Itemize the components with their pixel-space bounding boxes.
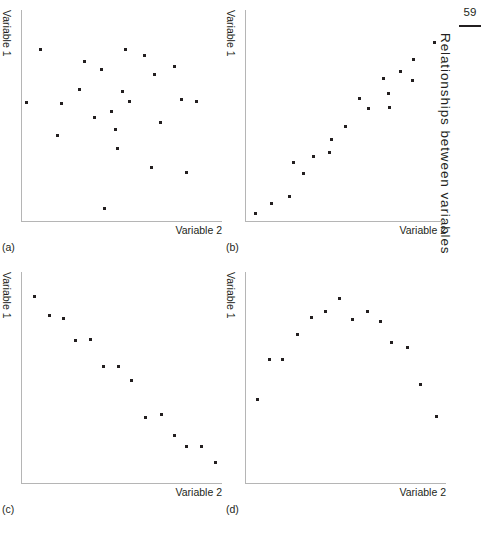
- data-point: [121, 90, 124, 93]
- data-point: [435, 415, 438, 418]
- data-point: [25, 101, 28, 104]
- data-point: [159, 121, 162, 124]
- data-point: [89, 338, 92, 341]
- x-axis-label-d: Variable 2: [245, 486, 446, 498]
- data-point: [185, 445, 188, 448]
- plot-frame-d: [245, 272, 446, 484]
- data-point: [143, 54, 146, 57]
- data-point: [388, 106, 391, 109]
- running-head: 59 Relationships between variables: [453, 0, 493, 300]
- data-point: [116, 147, 119, 150]
- data-point: [328, 151, 331, 154]
- data-point: [411, 79, 414, 82]
- data-point: [117, 365, 120, 368]
- plot-frame-c: [21, 272, 222, 484]
- data-point: [128, 100, 131, 103]
- data-point: [292, 161, 295, 164]
- panel-tag-a: (a): [2, 241, 15, 253]
- y-axis-label-text: Variable 1: [225, 10, 237, 57]
- data-point: [419, 383, 422, 386]
- scatterplot-panel-d: Variable 1 Variable 2 (d): [224, 264, 448, 526]
- data-point: [268, 358, 271, 361]
- plot-area-a: [22, 10, 222, 221]
- data-point: [114, 128, 117, 131]
- data-point: [302, 172, 305, 175]
- data-point: [102, 365, 105, 368]
- plot-area-b: [246, 10, 446, 221]
- y-axis-label-text: Variable 1: [1, 272, 13, 319]
- data-point: [200, 445, 203, 448]
- data-point: [387, 92, 390, 95]
- y-axis-label-c: Variable 1: [0, 272, 16, 352]
- data-point: [254, 212, 257, 215]
- data-point: [150, 166, 153, 169]
- data-point: [60, 102, 63, 105]
- data-point: [390, 341, 393, 344]
- data-point: [185, 171, 188, 174]
- data-point: [330, 138, 333, 141]
- data-point: [110, 110, 113, 113]
- data-point: [130, 379, 133, 382]
- data-point: [338, 297, 341, 300]
- data-point: [412, 58, 415, 61]
- panel-tag-d: (d): [226, 503, 239, 515]
- data-point: [288, 195, 291, 198]
- data-point: [83, 60, 86, 63]
- data-point: [358, 97, 361, 100]
- data-point: [153, 73, 156, 76]
- data-point: [93, 116, 96, 119]
- y-axis-label-d: Variable 1: [224, 272, 240, 352]
- data-point: [103, 207, 106, 210]
- data-point: [39, 48, 42, 51]
- data-point: [399, 70, 402, 73]
- x-axis-label-c: Variable 2: [21, 486, 222, 498]
- data-point: [310, 316, 313, 319]
- data-point: [195, 100, 198, 103]
- data-point: [382, 77, 385, 80]
- page-number: 59: [453, 6, 487, 18]
- data-point: [144, 416, 147, 419]
- data-point: [214, 461, 217, 464]
- data-point: [281, 358, 284, 361]
- scatterplot-panel-b: Variable 1 Variable 2 (b): [224, 2, 448, 264]
- data-point: [366, 310, 369, 313]
- plot-area-d: [246, 272, 446, 483]
- data-point: [74, 339, 77, 342]
- y-axis-label-b: Variable 1: [224, 10, 240, 90]
- x-axis-label-a: Variable 2: [21, 224, 222, 236]
- data-point: [78, 88, 81, 91]
- y-axis-label-text: Variable 1: [1, 10, 13, 57]
- data-point: [56, 134, 59, 137]
- data-point: [344, 125, 347, 128]
- data-point: [100, 68, 103, 71]
- data-point: [33, 295, 36, 298]
- folio-divider: [459, 25, 481, 27]
- data-point: [379, 320, 382, 323]
- panel-tag-c: (c): [2, 503, 14, 515]
- data-point: [173, 434, 176, 437]
- data-point: [351, 318, 354, 321]
- x-axis-label-b: Variable 2: [245, 224, 446, 236]
- data-point: [324, 310, 327, 313]
- scatterplot-panel-a: Variable 1 Variable 2 (a): [0, 2, 224, 264]
- y-axis-label-a: Variable 1: [0, 10, 16, 90]
- data-point: [173, 65, 176, 68]
- data-point: [160, 413, 163, 416]
- data-point: [124, 48, 127, 51]
- data-point: [367, 107, 370, 110]
- data-point: [312, 155, 315, 158]
- data-point: [48, 314, 51, 317]
- data-point: [256, 398, 259, 401]
- scatterplot-panel-c: Variable 1 Variable 2 (c): [0, 264, 224, 526]
- data-point: [406, 346, 409, 349]
- y-axis-label-text: Variable 1: [225, 272, 237, 319]
- data-point: [270, 202, 273, 205]
- plot-frame-b: [245, 10, 446, 222]
- plot-frame-a: [21, 10, 222, 222]
- data-point: [296, 333, 299, 336]
- panel-tag-b: (b): [226, 241, 239, 253]
- data-point: [433, 41, 436, 44]
- data-point: [180, 98, 183, 101]
- plot-area-c: [22, 272, 222, 483]
- data-point: [62, 317, 65, 320]
